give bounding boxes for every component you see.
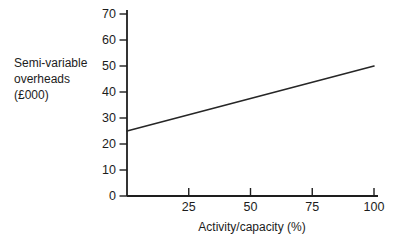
line-chart: 010203040506070255075100 — [0, 0, 396, 248]
y-tick-label: 60 — [102, 33, 116, 47]
y-tick-label: 40 — [102, 85, 116, 99]
x-axis-title: Activity/capacity (%) — [127, 220, 377, 234]
y-tick-label: 20 — [102, 137, 116, 151]
x-tick-label: 75 — [305, 200, 319, 214]
y-tick-label: 10 — [102, 163, 116, 177]
x-tick-label: 50 — [244, 200, 258, 214]
y-tick-label: 70 — [102, 7, 116, 21]
x-tick-label: 25 — [182, 200, 196, 214]
y-tick-label: 30 — [102, 111, 116, 125]
y-tick-label: 0 — [109, 189, 116, 203]
figure: Semi-variable overheads (£000) 010203040… — [0, 0, 396, 248]
y-tick-label: 50 — [102, 59, 116, 73]
x-tick-label: 100 — [364, 200, 385, 214]
data-line-semi-variable-overheads — [127, 66, 374, 131]
